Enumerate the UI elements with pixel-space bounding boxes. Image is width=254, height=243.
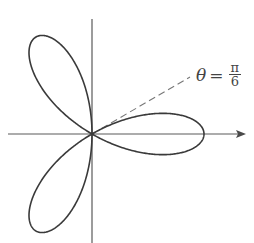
theta-label: θ = π 6 [196,61,241,88]
theta-symbol: θ [196,65,206,85]
fraction-denominator: 6 [231,75,239,88]
equals-sign: = [209,65,223,85]
fraction-numerator: π [229,61,242,75]
polar-rose-diagram [0,0,254,243]
theta-pi-over-6-line [92,77,190,134]
fraction: π 6 [229,61,242,88]
